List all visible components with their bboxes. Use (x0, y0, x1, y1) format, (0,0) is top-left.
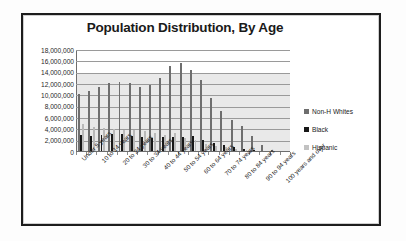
bar-group (178, 50, 188, 152)
legend-item[interactable]: Hispanic (304, 144, 380, 151)
legend-label: Non-H Whites (312, 108, 353, 115)
x-tick (280, 152, 281, 155)
x-tick (147, 152, 148, 155)
x-tick (239, 152, 240, 155)
x-axis-ticks (76, 152, 290, 156)
bar-group (239, 50, 249, 152)
plot-area (76, 50, 290, 152)
x-tick (158, 152, 159, 155)
legend-item[interactable]: Black (304, 126, 380, 133)
bar-group (229, 50, 239, 152)
chart-title: Population Distribution, By Age (50, 20, 320, 35)
x-tick (76, 152, 77, 155)
x-tick (219, 152, 220, 155)
bar-group (219, 50, 229, 152)
y-tick-label: 4,000,000 (45, 126, 74, 133)
bar-group (117, 50, 127, 152)
chart-screenshot: Population Distribution, By Age 18,000,0… (0, 0, 406, 241)
legend-swatch-icon (304, 109, 309, 114)
bar (103, 128, 105, 152)
x-tick (86, 152, 87, 155)
x-tick (208, 152, 209, 155)
bar-group (280, 50, 290, 152)
bar-group (259, 50, 269, 152)
y-tick-label: 14,000,000 (41, 69, 74, 76)
bar-group (86, 50, 96, 152)
legend-swatch-icon (304, 127, 309, 132)
x-tick (168, 152, 169, 155)
y-tick-label: 0 (70, 149, 74, 156)
y-tick-label: 10,000,000 (41, 92, 74, 99)
bar-group (198, 50, 208, 152)
y-tick-label: 18,000,000 (41, 47, 74, 54)
y-tick-label: 2,000,000 (45, 137, 74, 144)
x-tick (259, 152, 260, 155)
x-tick (117, 152, 118, 155)
bar-group (188, 50, 198, 152)
legend-item[interactable]: Non-H Whites (304, 108, 380, 115)
x-tick (249, 152, 250, 155)
bar (123, 130, 125, 152)
bar-group (127, 50, 137, 152)
bar (154, 133, 156, 152)
bar (133, 130, 135, 152)
x-tick (290, 152, 291, 155)
legend-label: Hispanic (312, 144, 337, 151)
bar (164, 135, 166, 152)
x-tick (107, 152, 108, 155)
bar-group (270, 50, 280, 152)
bar-group (137, 50, 147, 152)
x-tick (229, 152, 230, 155)
x-tick (127, 152, 128, 155)
bar-group (158, 50, 168, 152)
x-tick (96, 152, 97, 155)
bar-group (168, 50, 178, 152)
y-axis-tick-labels: 18,000,00016,000,00014,000,00012,000,000… (20, 44, 74, 158)
bar-group (249, 50, 259, 152)
y-tick-label: 8,000,000 (45, 103, 74, 110)
y-tick-label: 12,000,000 (41, 81, 74, 88)
bar (144, 131, 146, 152)
bar (113, 129, 115, 152)
bar-series-container (76, 50, 290, 152)
bar-group (147, 50, 157, 152)
x-tick (137, 152, 138, 155)
legend-swatch-icon (304, 145, 309, 150)
bar (82, 124, 84, 152)
x-tick (188, 152, 189, 155)
y-tick-label: 16,000,000 (41, 58, 74, 65)
legend-label: Black (312, 126, 328, 133)
bar-group (96, 50, 106, 152)
bar (93, 127, 95, 153)
chart-legend: Non-H WhitesBlackHispanic (304, 108, 380, 162)
bar (174, 133, 176, 152)
x-tick (178, 152, 179, 155)
x-tick (198, 152, 199, 155)
bar-group (107, 50, 117, 152)
y-tick-label: 6,000,000 (45, 115, 74, 122)
bar (184, 138, 186, 152)
bar-group (208, 50, 218, 152)
bar-group (76, 50, 86, 152)
x-tick (270, 152, 271, 155)
